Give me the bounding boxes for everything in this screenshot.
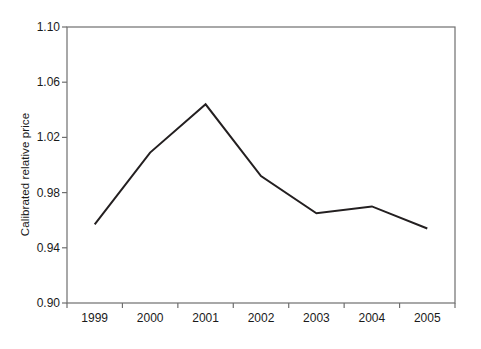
plot-frame [67,27,455,303]
line-chart: Calibrated relative price 0.900.940.981.… [0,0,481,349]
plot-area [0,0,481,349]
